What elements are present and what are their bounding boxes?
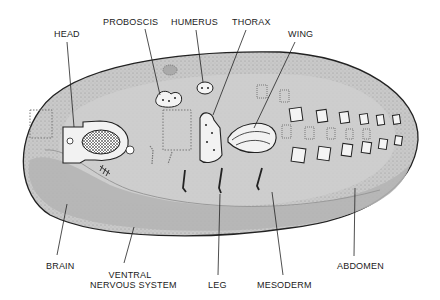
- humerus-disc: [197, 82, 213, 94]
- label-ventral-line2: NERVOUS SYSTEM: [90, 280, 170, 290]
- label-leg: LEG: [208, 280, 227, 290]
- label-wing: WING: [288, 29, 313, 39]
- embryo-diagram: HEAD PROBOSCIS HUMERUS THORAX WING BRAIN…: [0, 0, 440, 300]
- label-thorax: THORAX: [232, 17, 271, 27]
- label-ventral-line1: VENTRAL: [90, 270, 170, 280]
- label-humerus: HUMERUS: [171, 17, 218, 27]
- label-proboscis: PROBOSCIS: [103, 17, 158, 27]
- label-abdomen: ABDOMEN: [337, 261, 384, 271]
- label-head: HEAD: [54, 29, 80, 39]
- label-mesoderm: MESODERM: [257, 280, 312, 290]
- label-ventral-nervous-system: VENTRAL NERVOUS SYSTEM: [90, 270, 170, 290]
- label-brain: BRAIN: [46, 261, 75, 271]
- embryo-illustration: [0, 0, 440, 300]
